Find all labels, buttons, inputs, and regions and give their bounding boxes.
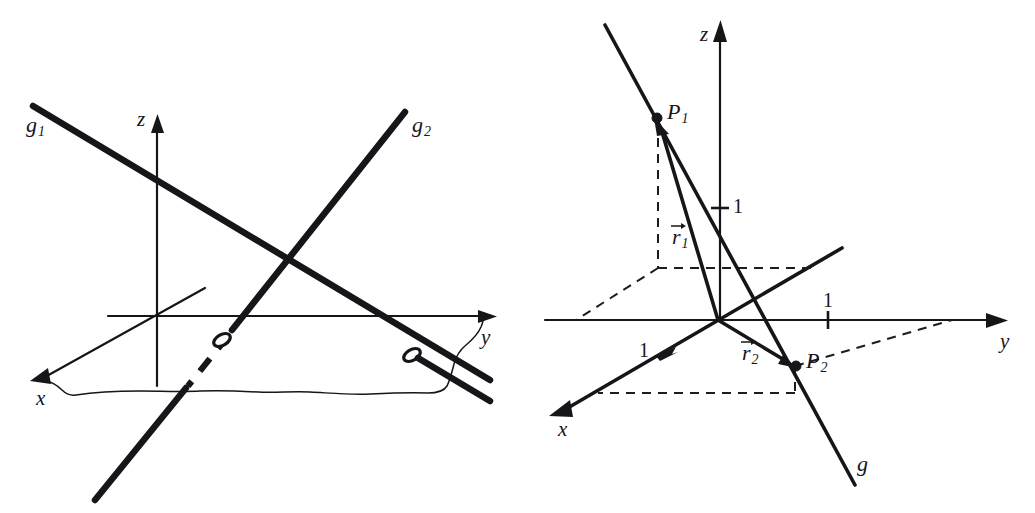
right-line-g xyxy=(605,25,855,485)
left-z-axis xyxy=(151,114,164,386)
left-y-axis xyxy=(108,310,497,323)
right-axis-label-z: z xyxy=(700,24,708,45)
vector-arrow-icon xyxy=(671,221,686,229)
right-point-P1 xyxy=(652,113,662,123)
left-axis-label-y: y xyxy=(481,327,490,348)
right-label-r2: r2 xyxy=(742,342,759,367)
right-label-P2: P2 xyxy=(806,350,827,375)
right-x-axis xyxy=(549,248,842,417)
left-line-g1 xyxy=(33,106,490,380)
right-unit-label-y: 1 xyxy=(823,290,833,310)
figure-root: g1 g2 z y x z y x g P1 P2 r1 xyxy=(0,0,1035,513)
left-axis-label-x: x xyxy=(36,388,45,409)
left-axis-label-z: z xyxy=(137,109,145,130)
vector-arrow-icon xyxy=(741,337,756,345)
right-unit-label-x: 1 xyxy=(639,340,649,360)
right-z-axis xyxy=(713,20,727,320)
left-hole-marker-1 xyxy=(212,331,233,349)
left-x-axis xyxy=(30,288,205,384)
right-label-r1: r1 xyxy=(672,226,689,251)
right-panel-group xyxy=(545,20,1008,485)
right-point-P2 xyxy=(791,361,801,371)
right-unit-label-z: 1 xyxy=(733,196,743,216)
figure-canvas xyxy=(0,0,1035,513)
left-panel-group xyxy=(30,106,497,500)
right-y-axis xyxy=(545,313,1008,328)
right-label-P1: P1 xyxy=(667,101,688,126)
right-label-g: g xyxy=(857,453,868,475)
left-label-g1: g1 xyxy=(26,114,45,139)
right-dashed-construction-p2 xyxy=(598,320,952,393)
right-axis-label-y: y xyxy=(1000,331,1009,352)
right-axis-label-x: x xyxy=(558,419,567,440)
left-label-g2: g2 xyxy=(412,114,431,139)
right-dashed-construction-p1 xyxy=(576,122,812,320)
